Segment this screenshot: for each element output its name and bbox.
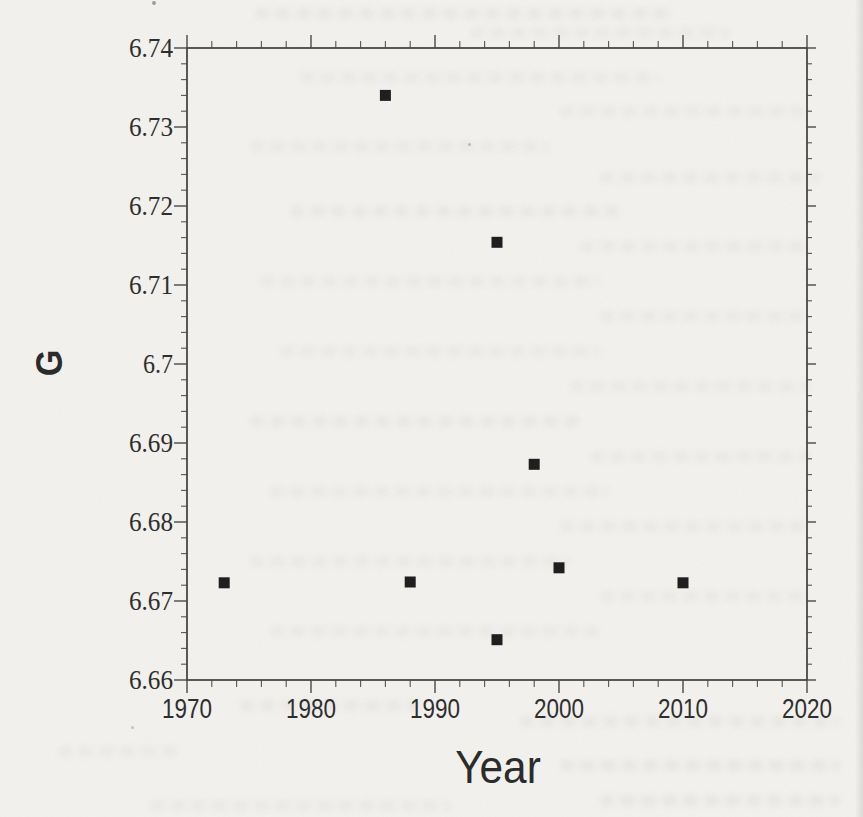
y-tick-label: 6.66	[129, 665, 173, 695]
x-tick-label: 2000	[534, 694, 584, 724]
y-axis-title: G	[29, 350, 71, 377]
plot-area: 1970198019902000201020206.666.676.686.69…	[0, 0, 863, 817]
y-tick-label: 6.72	[129, 191, 173, 221]
g-vs-year-scatter-chart: 1970198019902000201020206.666.676.686.69…	[0, 0, 863, 817]
data-point-marker	[529, 459, 540, 470]
x-tick-label: 1980	[286, 694, 336, 724]
x-axis-title: Year	[455, 740, 541, 794]
data-point-marker	[554, 562, 565, 573]
x-tick-label: 1990	[410, 694, 460, 724]
data-point-marker	[492, 634, 503, 645]
x-tick-label: 2010	[658, 694, 708, 724]
scanned-page: 1970198019902000201020206.666.676.686.69…	[0, 0, 863, 817]
y-tick-label: 6.7	[143, 349, 173, 379]
data-point-marker	[678, 577, 689, 588]
y-tick-label: 6.71	[129, 270, 173, 300]
plot-frame	[187, 48, 807, 680]
y-tick-label: 6.68	[129, 507, 173, 537]
x-tick-label: 2020	[782, 694, 832, 724]
data-point-marker	[219, 577, 230, 588]
y-tick-label: 6.74	[129, 33, 173, 63]
data-point-marker	[492, 237, 503, 248]
y-tick-label: 6.67	[129, 586, 173, 616]
y-tick-label: 6.73	[129, 112, 173, 142]
data-point-marker	[380, 90, 391, 101]
x-tick-label: 1970	[162, 694, 212, 724]
data-point-marker	[405, 577, 416, 588]
y-tick-label: 6.69	[129, 428, 173, 458]
